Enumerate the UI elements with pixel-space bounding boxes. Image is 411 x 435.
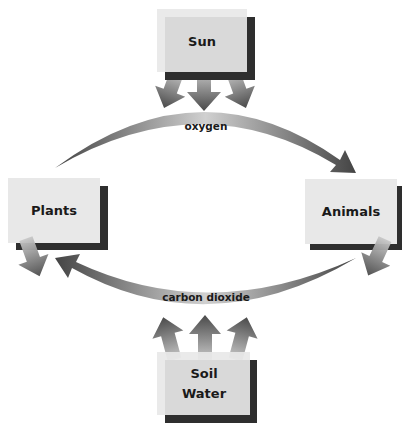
sun-node: Sun [157, 9, 255, 80]
soil-water-box [157, 352, 250, 415]
water-label: Water [182, 386, 227, 401]
sun-label: Sun [188, 34, 216, 49]
soil-water-node: Soil Water [157, 352, 257, 423]
carbon-dioxide-arrow: carbon dioxide [55, 254, 356, 304]
animals-node: Animals [305, 179, 402, 250]
oxygen-label: oxygen [185, 120, 228, 132]
oxygen-arrow: oxygen [55, 112, 356, 173]
plants-node: Plants [8, 178, 108, 250]
carbon-oxygen-cycle-diagram: oxygen carbon dioxide Sun [0, 0, 411, 435]
carbon-dioxide-label: carbon dioxide [162, 291, 250, 303]
plants-label: Plants [31, 203, 77, 218]
soil-label: Soil [190, 366, 217, 381]
animals-label: Animals [322, 204, 381, 219]
